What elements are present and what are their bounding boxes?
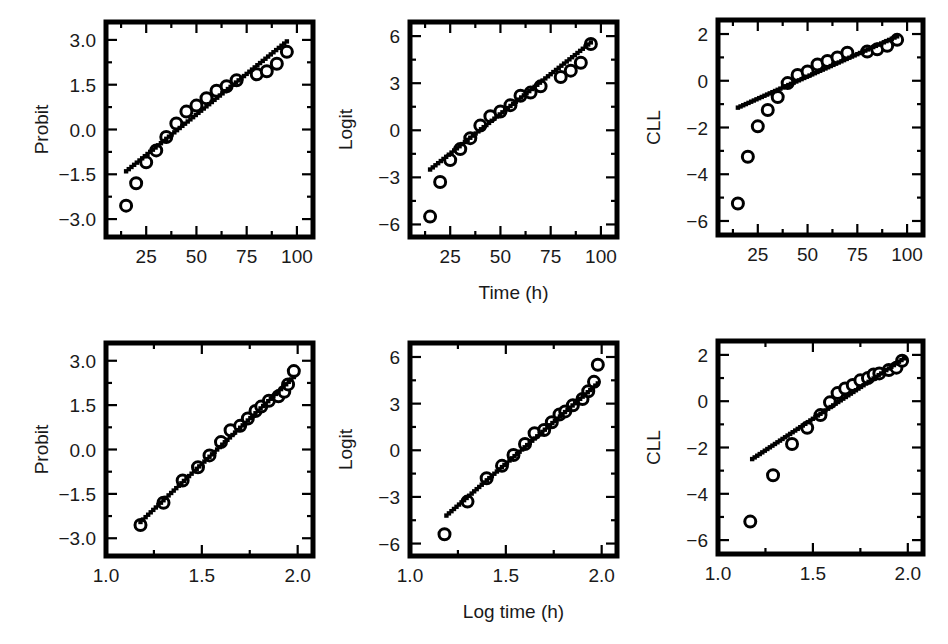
x-axis-label: Time (h)	[478, 282, 548, 303]
data-point-marker	[425, 211, 436, 222]
data-point-marker	[592, 359, 603, 370]
y-tick-label: 1.5	[70, 395, 96, 416]
y-tick-label: 1.5	[70, 75, 96, 96]
plot-frame	[718, 20, 923, 235]
data-point-marker	[565, 65, 576, 76]
y-tick-label: −6	[378, 214, 400, 235]
y-tick-label: −2	[686, 118, 708, 139]
y-tick-label: 6	[389, 26, 400, 47]
y-tick-label: −1.5	[58, 484, 96, 505]
x-tick-label: 1.0	[93, 565, 119, 586]
y-axis-label: Probit	[31, 104, 52, 154]
x-tick-label: 1.0	[705, 563, 731, 584]
data-point-marker	[742, 151, 753, 162]
y-axis-label: Probit	[31, 424, 52, 474]
y-tick-label: 3	[389, 394, 400, 415]
y-tick-label: −4	[686, 484, 708, 505]
data-point-marker	[131, 178, 142, 189]
y-axis-label: Logit	[335, 108, 356, 150]
y-tick-label: −3.0	[58, 209, 96, 230]
data-point-marker	[575, 57, 586, 68]
x-tick-label: 50	[186, 246, 207, 267]
fitted-line-segment	[285, 39, 289, 43]
fitted-line-segment	[895, 34, 899, 38]
data-point-marker	[121, 200, 132, 211]
data-point-marker	[745, 516, 756, 527]
figure-grid: 2550751003.01.50.0−1.5−3.0Probit25507510…	[0, 0, 948, 644]
y-tick-label: 3	[389, 73, 400, 94]
x-tick-label: 1.5	[800, 563, 826, 584]
panel-time-probit: 2550751003.01.50.0−1.5−3.0Probit	[31, 22, 313, 267]
data-point-marker	[768, 470, 779, 481]
y-tick-label: −4	[686, 164, 708, 185]
y-tick-label: 6	[389, 347, 400, 368]
x-tick-label: 2.0	[284, 565, 310, 586]
y-tick-label: −6	[686, 211, 708, 232]
x-tick-label: 1.0	[397, 565, 423, 586]
x-tick-label: 75	[847, 244, 868, 265]
y-tick-label: −6	[378, 534, 400, 555]
y-tick-label: −3	[378, 167, 400, 188]
panel-logtime-probit: 1.01.52.03.01.50.0−1.5−3.0Probit	[31, 343, 313, 586]
x-tick-label: 2.0	[895, 563, 921, 584]
y-tick-label: −6	[686, 530, 708, 551]
y-tick-label: 0	[697, 391, 708, 412]
y-tick-label: 0.0	[70, 120, 96, 141]
fitted-line-segment	[589, 40, 593, 44]
data-point-marker	[732, 198, 743, 209]
y-axis-label: Logit	[335, 428, 356, 470]
x-tick-label: 75	[540, 246, 561, 267]
figure-canvas: 2550751003.01.50.0−1.5−3.0Probit25507510…	[0, 0, 948, 644]
fitted-line-segment	[902, 356, 906, 360]
y-tick-label: 0	[389, 120, 400, 141]
x-tick-label: 2.0	[588, 565, 614, 586]
x-tick-label: 25	[136, 246, 157, 267]
panel-time-cll: 25507510020−2−4−6CLL	[643, 20, 923, 265]
data-point-marker	[271, 58, 282, 69]
data-point-marker	[281, 46, 292, 57]
panel-logtime-logit: 1.01.52.0630−3−6LogitLog time (h)	[335, 343, 617, 622]
x-tick-label: 1.5	[493, 565, 519, 586]
x-tick-label: 25	[747, 244, 768, 265]
y-tick-label: −3.0	[58, 528, 96, 549]
y-tick-label: −3	[378, 487, 400, 508]
panel-logtime-cll: 1.01.52.020−2−4−6CLL	[643, 341, 923, 584]
x-tick-label: 25	[440, 246, 461, 267]
y-tick-label: −2	[686, 438, 708, 459]
fitted-line-segment	[292, 375, 296, 379]
y-axis-label: CLL	[643, 110, 664, 145]
x-tick-label: 100	[891, 244, 923, 265]
panel-time-logit: 255075100630−3−6LogitTime (h)	[335, 22, 617, 303]
y-tick-label: 0.0	[70, 440, 96, 461]
x-tick-label: 50	[490, 246, 511, 267]
data-point-marker	[439, 529, 450, 540]
x-tick-label: 1.5	[189, 565, 215, 586]
x-tick-label: 100	[281, 246, 313, 267]
y-axis-label: CLL	[643, 430, 664, 465]
y-tick-label: 3.0	[70, 30, 96, 51]
data-point-marker	[787, 439, 798, 450]
y-tick-label: −1.5	[58, 164, 96, 185]
data-point-marker	[261, 66, 272, 77]
fitted-line-segment	[596, 381, 600, 385]
y-tick-label: 0	[697, 71, 708, 92]
plot-frame	[410, 22, 617, 237]
y-tick-label: 2	[697, 24, 708, 45]
x-axis-label: Log time (h)	[463, 601, 564, 622]
data-point-marker	[762, 104, 773, 115]
y-tick-label: 0	[389, 440, 400, 461]
y-tick-label: 2	[697, 345, 708, 366]
x-tick-label: 100	[585, 246, 617, 267]
y-tick-label: 3.0	[70, 351, 96, 372]
x-tick-label: 50	[797, 244, 818, 265]
data-point-marker	[752, 121, 763, 132]
x-tick-label: 75	[236, 246, 257, 267]
data-point-marker	[435, 177, 446, 188]
